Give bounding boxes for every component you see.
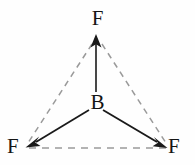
bond-b-f-bottom-left-arrowhead: [26, 137, 41, 148]
molecule-diagram-canvas: F B F F: [0, 0, 195, 165]
atom-label-f-bottom-left: F: [7, 136, 19, 157]
atom-label-b-center: B: [0, 92, 195, 113]
atom-label-f-top: F: [0, 8, 195, 29]
atom-label-f-bottom-right: F: [168, 136, 180, 157]
bond-b-f-bottom-right: [103, 110, 157, 142]
bond-b-f-bottom-left: [36, 110, 89, 142]
bond-b-f-bottom-right-arrowhead: [153, 137, 168, 148]
